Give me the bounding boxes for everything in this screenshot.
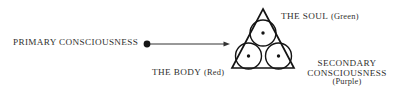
body-center-dot xyxy=(247,54,250,57)
secondary-label-paren: (Purple) xyxy=(298,78,396,87)
soul-label-caps: THE SOUL xyxy=(281,11,328,21)
primary-consciousness-dot xyxy=(144,41,151,48)
secondary-consciousness-center-dot xyxy=(277,54,280,57)
primary-consciousness-label: PRIMARY CONSCIOUSNESS xyxy=(13,38,138,48)
arrow-head-icon xyxy=(224,41,231,46)
body-label: THE BODY (Red) xyxy=(152,68,224,78)
body-label-paren: (Red) xyxy=(204,68,224,77)
soul-label: THE SOUL (Green) xyxy=(281,12,359,22)
secondary-consciousness-label: SECONDARY CONSCIOUSNESS (Purple) xyxy=(298,59,396,87)
soul-center-dot xyxy=(261,31,264,34)
body-label-caps: THE BODY xyxy=(152,67,201,77)
soul-label-paren: (Green) xyxy=(331,12,359,21)
diagram-canvas: PRIMARY CONSCIOUSNESS THE SOUL (Green) T… xyxy=(0,0,396,101)
